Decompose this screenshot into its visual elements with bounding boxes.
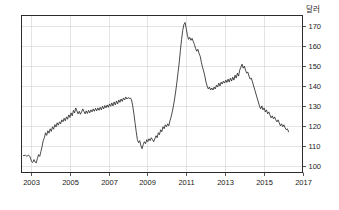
x-tick-label: 2011 xyxy=(178,178,194,187)
chart-background xyxy=(0,0,339,210)
y-axis-unit-label: 달러 xyxy=(306,5,320,14)
y-tick-label: 110 xyxy=(309,142,321,151)
x-tick-label: 2005 xyxy=(62,178,79,187)
x-tick-label: 2003 xyxy=(23,178,40,187)
y-tick-label: 160 xyxy=(309,42,322,51)
y-tick-label: 150 xyxy=(309,62,322,71)
x-tick-label: 2007 xyxy=(101,178,118,187)
x-tick-label: 2009 xyxy=(139,178,156,187)
y-tick-label: 170 xyxy=(309,22,322,31)
y-tick-label: 120 xyxy=(309,122,322,131)
y-tick-label: 140 xyxy=(309,82,322,91)
line-chart: 100110120130140150160170 200320052007200… xyxy=(0,0,339,210)
y-tick-label: 130 xyxy=(309,102,322,111)
x-tick-label: 2013 xyxy=(217,178,234,187)
y-tick-label: 100 xyxy=(309,162,322,171)
x-tick-label: 2015 xyxy=(256,178,273,187)
x-tick-label: 2017 xyxy=(295,178,312,187)
chart-container: 100110120130140150160170 200320052007200… xyxy=(0,0,339,210)
